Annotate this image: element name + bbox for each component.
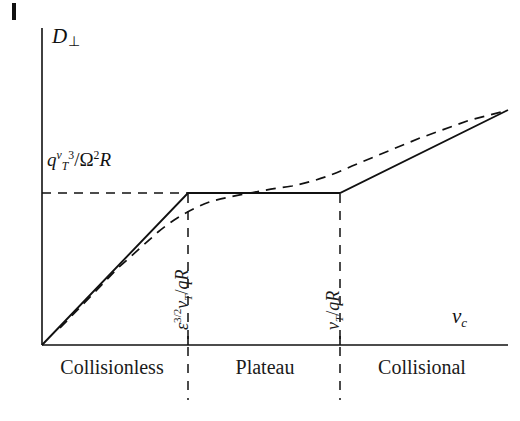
- tick2-denominator: qR: [323, 291, 343, 311]
- tick1-epsilon: ε: [172, 323, 192, 330]
- level-tail: R: [99, 149, 111, 170]
- regime-label-plateau: Plateau: [192, 356, 338, 379]
- tick1-exponent: 3/2: [171, 309, 183, 323]
- transition-1-tick-label: ε3/2vT/qR: [172, 269, 193, 330]
- y-axis-symbol: D: [52, 24, 67, 48]
- tick1-divider: /: [172, 289, 192, 294]
- y-axis-label: D⊥: [52, 26, 80, 49]
- tick2-divider: /: [323, 311, 343, 316]
- y-axis-subscript: ⊥: [68, 34, 80, 49]
- x-axis-subscript: c: [461, 315, 467, 330]
- tick1-v-sub: T: [182, 294, 194, 300]
- x-axis-label: νc: [452, 306, 467, 327]
- figure-container: D⊥ qvT3/Ω2R νc ε3/2vT/qR vT/qR Collision…: [0, 0, 520, 421]
- tick2-v: v: [323, 322, 343, 330]
- level-omega: Ω: [79, 149, 93, 170]
- regime-label-collisionless: Collisionless: [36, 356, 188, 379]
- level-lead: q: [47, 149, 57, 170]
- tick2-v-sub: T: [333, 316, 345, 322]
- transition-2-tick-label: vT/qR: [323, 291, 344, 330]
- idealized-transport-curve: [42, 110, 508, 345]
- tick1-denominator: qR: [172, 269, 192, 289]
- level-value-label: qvT3/Ω2R: [47, 150, 111, 169]
- tick1-v: v: [172, 301, 192, 309]
- x-axis-symbol: ν: [452, 304, 461, 328]
- regime-label-collisional: Collisional: [344, 356, 500, 379]
